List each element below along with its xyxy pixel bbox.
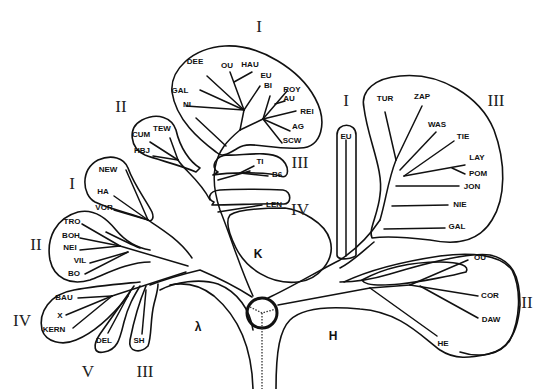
clade-numeral: IV bbox=[291, 200, 310, 219]
leaf-label: LEN bbox=[266, 200, 282, 209]
leaf-label: DEL bbox=[96, 336, 112, 345]
leaf-label: KERN bbox=[43, 325, 66, 334]
leaf-label: NEI bbox=[63, 243, 76, 252]
leaf-label: WAS bbox=[428, 120, 447, 129]
leaf-label: OU bbox=[221, 61, 233, 70]
clade-ou-II-outline bbox=[344, 254, 519, 355]
leaf-label: EU bbox=[340, 132, 351, 141]
leaf-label: EU bbox=[260, 71, 271, 80]
clade-numeral: II bbox=[521, 293, 533, 312]
leaf-label: GAL bbox=[172, 86, 189, 95]
leaf-label: COR bbox=[481, 291, 499, 300]
clade-numeral: I bbox=[69, 174, 75, 193]
leaf-label: TEW bbox=[153, 124, 171, 133]
leaf-label: BI bbox=[264, 81, 272, 90]
leaf-label: ROY bbox=[283, 85, 301, 94]
clade-numeral: I bbox=[256, 17, 262, 36]
leaf-label: NI bbox=[183, 100, 191, 109]
leaf-label: HBJ bbox=[134, 146, 150, 155]
clade-numeral: II bbox=[115, 97, 127, 116]
leaf-label: X bbox=[57, 311, 63, 320]
leaf-label: JON bbox=[464, 182, 481, 191]
clade-numeral: V bbox=[82, 362, 95, 381]
leaf-label: LAY bbox=[469, 153, 485, 162]
clade-numeral: II bbox=[30, 235, 42, 254]
leaf-label: NEW bbox=[99, 165, 118, 174]
region-label-h: H bbox=[329, 329, 338, 343]
leaf-label: TRO bbox=[64, 217, 81, 226]
leaf-label: SCW bbox=[283, 136, 302, 145]
clade-numeral: III bbox=[488, 91, 505, 110]
leaf-label: VOR bbox=[95, 203, 113, 212]
leaf-label: BAU bbox=[55, 293, 73, 302]
leaf-label: VIL bbox=[74, 256, 87, 265]
clade-numeral: III bbox=[292, 153, 309, 172]
leaf-label: BOH bbox=[62, 231, 80, 240]
leaf-label: CUM bbox=[132, 130, 151, 139]
leaf-label: HE bbox=[437, 339, 449, 348]
leaf-label: AU bbox=[283, 94, 295, 103]
leaf-label: HA bbox=[97, 187, 109, 196]
trunk-outlines bbox=[150, 254, 520, 389]
clade-numeral: I bbox=[343, 91, 349, 110]
clade-numeral: IV bbox=[13, 311, 32, 330]
leaf-label: DEE bbox=[187, 57, 204, 66]
region-label-lambda: λ bbox=[195, 320, 202, 334]
leaf-label: NIE bbox=[453, 200, 467, 209]
leaf-label: DAW bbox=[482, 315, 501, 324]
leaf-label: BO bbox=[68, 269, 80, 278]
clade-numeral: III bbox=[137, 362, 154, 381]
leaf-label: B6 bbox=[272, 170, 283, 179]
leaf-label: GAL bbox=[449, 222, 466, 231]
leaf-label: POM bbox=[469, 169, 488, 178]
phylogenetic-tree-diagram: K λ H I II III IV I II IV V III I III II… bbox=[0, 0, 548, 389]
leaf-label: OU bbox=[474, 253, 486, 262]
leaf-label: SH bbox=[133, 336, 144, 345]
leaf-label: TI bbox=[256, 157, 263, 166]
leaf-label: AG bbox=[292, 122, 304, 131]
leaf-labels: DEE OU HAU EU BI ROY AU REI AG SCW GAL N… bbox=[43, 57, 501, 348]
leaf-label: TIE bbox=[457, 132, 470, 141]
leaf-label: HAU bbox=[241, 60, 259, 69]
leaf-label: REI bbox=[300, 107, 313, 116]
leaf-label: TUR bbox=[377, 94, 394, 103]
leaf-label: ZAP bbox=[414, 92, 431, 101]
region-label-k: K bbox=[254, 247, 263, 261]
